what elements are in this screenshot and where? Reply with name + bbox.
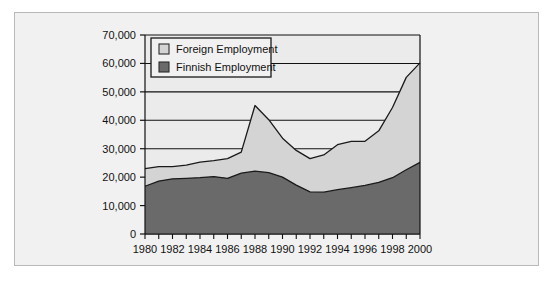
x-tick-label-1982: 1982 [160,243,184,255]
x-tick-label-2000: 2000 [408,243,432,255]
y-tick-label-30000: 30,000 [102,143,136,155]
legend-label-foreign: Foreign Employment [176,43,278,55]
y-tick-label-20000: 20,000 [102,171,136,183]
y-tick-label-40000: 40,000 [102,114,136,126]
figure-root: 010,00020,00030,00040,00050,00060,00070,… [0,0,553,282]
x-tick-label-1998: 1998 [380,243,404,255]
chart-panel: 010,00020,00030,00040,00050,00060,00070,… [14,12,539,266]
y-tick-label-60000: 60,000 [102,57,136,69]
x-tick-label-1994: 1994 [325,243,349,255]
y-tick-label-50000: 50,000 [102,86,136,98]
x-tick-label-1988: 1988 [243,243,267,255]
x-tick-label-1992: 1992 [298,243,322,255]
legend-label-finnish: Finnish Employment [176,61,276,73]
x-tick-label-1986: 1986 [215,243,239,255]
legend-swatch-foreign-icon [159,44,169,54]
stacked-area-chart: 010,00020,00030,00040,00050,00060,00070,… [15,13,538,265]
y-tick-label-0: 0 [130,228,136,240]
x-tick-label-1996: 1996 [353,243,377,255]
x-tick-label-1984: 1984 [188,243,212,255]
y-tick-label-70000: 70,000 [102,29,136,41]
legend-swatch-finnish-icon [159,62,169,72]
y-tick-label-10000: 10,000 [102,200,136,212]
x-tick-label-1990: 1990 [270,243,294,255]
x-tick-label-1980: 1980 [133,243,157,255]
